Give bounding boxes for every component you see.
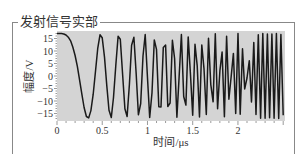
y-tick-label: −5 [42, 83, 53, 94]
y-tick-label: 15 [43, 33, 53, 44]
x-tick-label: 0.5 [96, 125, 109, 136]
x-tick-label: 2 [235, 125, 240, 136]
y-axis: 151050−5−10−15 [37, 33, 57, 119]
y-tick-label: 0 [48, 71, 53, 82]
x-axis-label: 时间/μs [153, 136, 188, 148]
x-axis: 00.511.52 [55, 121, 284, 136]
y-tick-label: 10 [43, 46, 53, 57]
y-tick-label: 5 [48, 58, 53, 69]
y-tick-label: −15 [37, 108, 53, 119]
x-tick-label: 1 [145, 125, 150, 136]
x-tick-label: 1.5 [186, 125, 199, 136]
x-tick-label: 0 [55, 125, 60, 136]
y-axis-label: 幅度/V [22, 59, 35, 92]
chirp-line-chart: 151050−5−10−15 00.511.52 幅度/V 时间/μs [0, 0, 303, 167]
y-tick-label: −10 [37, 96, 53, 107]
